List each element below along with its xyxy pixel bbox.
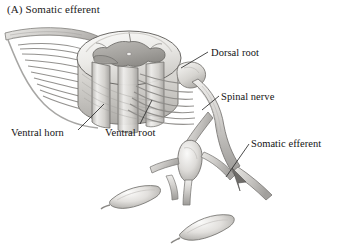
terminal-nerve-stub: [166, 175, 178, 200]
label-somatic-efferent: Somatic efferent: [251, 138, 321, 149]
label-ventral-horn: Ventral horn: [11, 127, 64, 138]
label-dorsal-root: Dorsal root: [211, 47, 259, 58]
cord-cut-columns: [92, 62, 164, 133]
label-ventral-root: Ventral root: [105, 127, 155, 138]
anatomical-illustration: [0, 0, 338, 250]
figure-panel-a-somatic-efferent: (A) Somatic efferent: [0, 0, 338, 250]
muscle-fiber-1: [101, 186, 161, 209]
label-spinal-nerve: Spinal nerve: [221, 91, 274, 102]
muscle-fiber-2: [171, 215, 234, 243]
